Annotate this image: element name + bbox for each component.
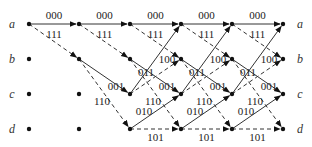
state-label-right-c: c [297, 87, 303, 101]
output-label-010: 010 [238, 105, 255, 117]
output-label-001: 001 [210, 80, 227, 92]
state-node-d-5 [281, 127, 285, 131]
output-label-011: 011 [189, 66, 205, 78]
state-node-d-2 [128, 127, 132, 131]
state-node-b-5 [281, 57, 285, 61]
output-label-110: 110 [94, 95, 111, 107]
output-labels: 0001110001110011100001110011100111000101… [46, 9, 278, 143]
output-label-000: 000 [96, 9, 113, 21]
state-node-a-4 [230, 22, 234, 26]
state-node-b-1 [77, 57, 81, 61]
state-node-a-2 [128, 22, 132, 26]
state-label-left-b: b [9, 52, 15, 66]
state-node-d-4 [230, 127, 234, 131]
state-node-a-1 [77, 22, 81, 26]
output-label-100: 100 [210, 53, 227, 65]
transition-b-d [79, 59, 128, 127]
state-node-c-5 [281, 92, 285, 96]
output-label-100: 100 [159, 53, 176, 65]
output-label-010: 010 [136, 105, 153, 117]
state-node-d-1 [77, 127, 81, 131]
state-node-c-0 [27, 92, 31, 96]
state-label-right-d: d [297, 122, 304, 136]
output-label-101: 101 [147, 131, 164, 143]
state-node-b-0 [27, 57, 31, 61]
output-label-010: 010 [187, 105, 204, 117]
output-label-101: 101 [249, 131, 266, 143]
output-label-111: 111 [250, 28, 266, 40]
output-label-001: 001 [261, 80, 278, 92]
output-label-111: 111 [199, 28, 215, 40]
output-label-000: 000 [249, 9, 266, 21]
state-node-c-1 [77, 92, 81, 96]
state-label-left-d: d [9, 122, 16, 136]
state-node-c-2 [128, 92, 132, 96]
state-node-a-0 [27, 22, 31, 26]
state-label-left-c: c [9, 87, 15, 101]
output-label-101: 101 [198, 131, 215, 143]
state-node-a-3 [179, 22, 183, 26]
state-label-right-b: b [297, 52, 303, 66]
output-label-000: 000 [147, 9, 164, 21]
output-label-011: 011 [138, 66, 154, 78]
state-node-a-5 [281, 22, 285, 26]
output-label-111: 111 [46, 28, 62, 40]
output-label-111: 111 [97, 28, 113, 40]
output-label-000: 000 [198, 9, 215, 21]
output-label-000: 000 [46, 9, 63, 21]
output-label-011: 011 [240, 66, 256, 78]
output-label-111: 111 [148, 28, 164, 40]
state-node-d-3 [179, 127, 183, 131]
state-node-b-3 [179, 57, 183, 61]
state-label-right-a: a [297, 17, 303, 31]
state-node-b-2 [128, 57, 132, 61]
trellis-diagram: 0001110001110011100001110011100111000101… [0, 0, 312, 147]
output-label-100: 100 [261, 53, 278, 65]
state-node-b-4 [230, 57, 234, 61]
state-label-left-a: a [9, 17, 15, 31]
state-node-d-0 [27, 127, 31, 131]
state-node-c-4 [230, 92, 234, 96]
output-label-001: 001 [159, 80, 176, 92]
output-label-001: 001 [108, 80, 125, 92]
state-node-c-3 [179, 92, 183, 96]
trellis-canvas: 0001110001110011100001110011100111000101… [0, 0, 312, 147]
